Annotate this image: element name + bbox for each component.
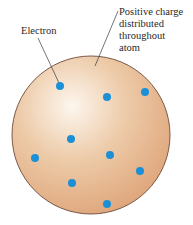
electron-dot: [106, 151, 114, 159]
electron-dot: [31, 154, 39, 162]
positive-charge-sphere: [12, 56, 170, 214]
electron-dot: [68, 179, 76, 187]
electron-label: Electron: [21, 25, 57, 37]
positive-charge-label: Positive charge distributed throughout a…: [119, 6, 183, 54]
electron-dot: [56, 82, 64, 90]
electron-dot: [103, 93, 111, 101]
positive-charge-label-line-1: Positive charge: [119, 6, 183, 18]
positive-charge-label-line-4: atom: [119, 42, 183, 54]
electron-dot: [67, 135, 75, 143]
positive-charge-label-line-2: distributed: [119, 18, 183, 30]
electron-dot: [103, 200, 111, 208]
positive-charge-label-line-3: throughout: [119, 30, 183, 42]
electron-dot: [136, 167, 144, 175]
electron-dot: [141, 88, 149, 96]
